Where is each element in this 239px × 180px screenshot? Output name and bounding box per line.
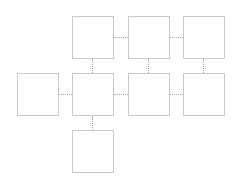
node-c <box>183 16 225 59</box>
node-diagram <box>0 0 239 180</box>
connector-f-g <box>170 94 183 95</box>
connector-b-f <box>148 59 149 73</box>
connector-d-e <box>59 94 72 95</box>
connector-b-c <box>170 37 183 38</box>
node-f <box>128 73 170 116</box>
connector-a-e <box>92 59 93 73</box>
connector-a-b <box>114 37 128 38</box>
connector-c-g <box>203 59 204 73</box>
node-a <box>72 16 114 59</box>
connector-e-f <box>114 94 128 95</box>
node-b <box>128 16 170 59</box>
node-d <box>17 73 59 116</box>
node-h <box>72 130 114 173</box>
node-e <box>72 73 114 116</box>
node-g <box>183 73 225 116</box>
connector-e-h <box>92 116 93 130</box>
